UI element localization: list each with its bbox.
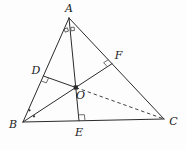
point-label-F: F bbox=[114, 49, 123, 62]
vertex-label-A: A bbox=[64, 2, 73, 15]
equal-angle-square-A-right bbox=[71, 27, 75, 31]
vertex-label-B: B bbox=[8, 118, 17, 131]
side-BC bbox=[23, 119, 164, 122]
equal-angle-square-A-left bbox=[64, 28, 68, 32]
equal-angle-dot-B-lower bbox=[33, 115, 35, 117]
equal-angle-dot-B-upper bbox=[28, 109, 30, 111]
right-angle-mark-E bbox=[78, 115, 85, 121]
point-label-O: O bbox=[76, 89, 85, 102]
geometry-figure: ABCDEFO bbox=[0, 0, 186, 150]
point-label-D: D bbox=[31, 64, 41, 77]
point-label-E: E bbox=[74, 126, 83, 139]
vertex-label-C: C bbox=[169, 115, 178, 128]
right-angle-mark-F bbox=[104, 60, 109, 67]
dashed-segment-OC bbox=[76, 88, 164, 120]
side-AC bbox=[69, 18, 164, 119]
altitude-AE bbox=[69, 18, 79, 121]
triangle-diagram-svg: ABCDEFO bbox=[0, 0, 186, 150]
